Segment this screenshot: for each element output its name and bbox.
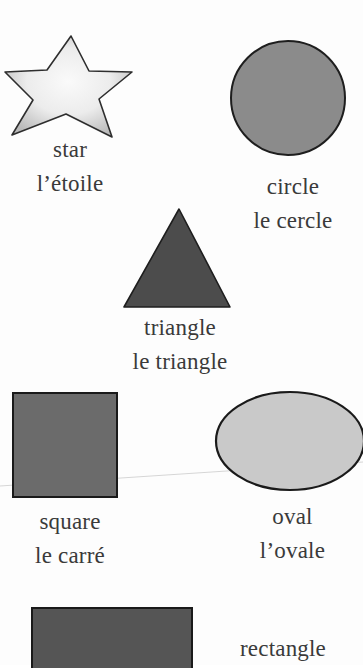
star-french-name: l’étoile [20,167,120,201]
square-shape [10,390,122,502]
square-label: square le carré [15,505,125,573]
oval-english-name: oval [240,500,345,534]
oval-french-name: l’ovale [240,534,345,568]
square-english-name: square [15,505,125,539]
oval-shape [210,390,363,496]
rectangle-label: rectangle [218,632,348,666]
oval-label: oval l’ovale [240,500,345,568]
star-label: star l’étoile [20,133,120,201]
star-shape [0,30,140,142]
triangle-english-name: triangle [110,311,250,345]
circle-shape [225,40,351,166]
rectangle-english-name: rectangle [218,632,348,666]
rectangle-shape [30,606,195,668]
triangle-french-name: le triangle [110,345,250,379]
star-english-name: star [20,133,120,167]
triangle-label: triangle le triangle [110,311,250,379]
circle-label: circle le cercle [238,170,348,238]
square-french-name: le carré [15,539,125,573]
triangle-shape [120,205,235,311]
circle-english-name: circle [238,170,348,204]
circle-french-name: le cercle [238,204,348,238]
